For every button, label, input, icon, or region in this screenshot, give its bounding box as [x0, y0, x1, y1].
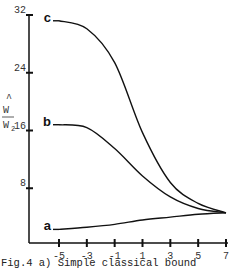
chart: 8162432 -5-3-11357 ^ W W 2 cba Fig.4 a) … — [0, 0, 230, 271]
y-axis-label-subscript: 2 — [11, 125, 15, 133]
y-tick-label: 24 — [14, 63, 26, 74]
series-group — [59, 21, 226, 230]
y-tick-label: 32 — [14, 5, 26, 16]
y-axis-label-numerator: W — [3, 105, 9, 116]
x-tick-label: 7 — [223, 251, 229, 262]
curve-label-c: c — [44, 10, 51, 25]
curve-label-a: a — [44, 218, 52, 233]
y-tick-label: 16 — [14, 121, 26, 132]
series-line-c — [59, 21, 226, 213]
y-axis-label-denominator: W — [3, 120, 9, 131]
y-ticks: 8162432 — [14, 5, 33, 189]
curve-label-b: b — [43, 114, 51, 129]
figure-caption: Fig.4 a) Simple classical bound — [1, 257, 196, 269]
y-axis-label: ^ W W 2 — [2, 93, 15, 133]
y-axis-label-hat: ^ — [6, 93, 12, 104]
series-line-b — [59, 125, 226, 213]
series-line-a — [59, 213, 226, 230]
curve-labels: cba — [43, 10, 59, 234]
y-tick-label: 8 — [20, 178, 26, 189]
